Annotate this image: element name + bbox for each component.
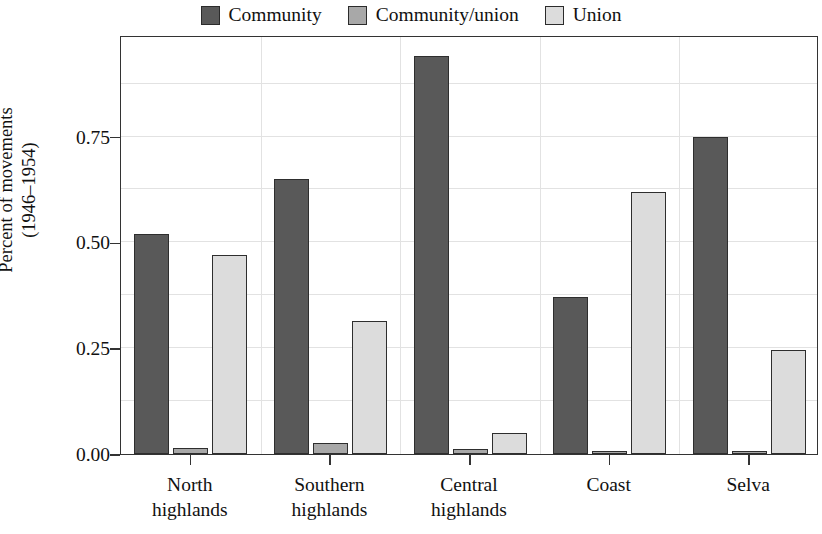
x-axis-tick-label: Southernhighlands <box>291 472 367 522</box>
y-axis-tick-mark <box>110 348 120 350</box>
x-axis-tick-label: Centralhighlands <box>431 472 507 522</box>
legend-entry-0[interactable]: Community <box>201 5 322 25</box>
x-axis-tick-mark <box>748 455 750 465</box>
x-axis-tick-label-line: highlands <box>152 497 228 522</box>
bar-north-highlands-community-union <box>173 448 208 454</box>
x-axis-tick-mark <box>329 455 331 465</box>
legend-swatch-icon <box>201 6 220 25</box>
gridline-vertical <box>261 37 262 454</box>
x-axis-tick-mark <box>609 455 611 465</box>
legend-label: Community <box>229 5 322 25</box>
y-axis-title-line-2: (1946–1954) <box>18 142 41 238</box>
y-axis-tick-mark <box>110 137 120 139</box>
gridline-vertical <box>400 37 401 454</box>
plot-area <box>120 36 818 455</box>
bar-central-highlands-community <box>414 56 449 454</box>
y-axis-tick-label: 0.50 <box>24 233 110 253</box>
bar-chart-figure: CommunityCommunity/unionUnion Percent of… <box>0 0 822 534</box>
y-axis-tick-label: 0.00 <box>24 445 110 465</box>
y-axis-tick-mark <box>110 243 120 245</box>
bar-southern-highlands-community <box>274 179 309 454</box>
bar-north-highlands-union <box>212 255 247 454</box>
gridline-vertical <box>679 37 680 454</box>
bar-southern-highlands-community-union <box>313 443 348 454</box>
bar-north-highlands-community <box>134 234 169 454</box>
x-axis-tick-label-line: Central <box>431 472 507 497</box>
legend-label: Union <box>573 5 622 25</box>
y-axis-tick-label: 0.75 <box>24 128 110 148</box>
x-axis-tick-label-line: Coast <box>586 472 630 497</box>
x-axis-tick-mark <box>190 455 192 465</box>
y-axis-title: Percent of movements (1946–1954) <box>0 40 41 340</box>
x-axis-tick-mark <box>469 455 471 465</box>
x-axis-tick-label-line: North <box>152 472 228 497</box>
x-axis-tick-label: Coast <box>586 472 630 497</box>
bar-coast-community <box>553 297 588 454</box>
bar-coast-union <box>631 192 666 454</box>
y-axis-title-line-1: Percent of movements <box>0 107 18 272</box>
x-axis-tick-label-line: Southern <box>291 472 367 497</box>
gridline-horizontal-minor <box>121 83 817 84</box>
bar-central-highlands-union <box>492 433 527 454</box>
bar-central-highlands-community-union <box>453 449 488 454</box>
x-axis-tick-label: Selva <box>727 472 770 497</box>
x-axis-tick-label-line: Selva <box>727 472 770 497</box>
bar-selva-community <box>693 137 728 454</box>
bar-selva-community-union <box>732 451 767 454</box>
y-axis-tick-label: 0.25 <box>24 339 110 359</box>
x-axis-tick-label-line: highlands <box>291 497 367 522</box>
legend-swatch-icon <box>348 6 367 25</box>
legend-swatch-icon <box>545 6 564 25</box>
bar-selva-union <box>771 350 806 454</box>
chart-legend: CommunityCommunity/unionUnion <box>0 2 822 28</box>
legend-entry-1[interactable]: Community/union <box>348 5 519 25</box>
gridline-vertical <box>540 37 541 454</box>
bar-coast-community-union <box>592 451 627 454</box>
legend-label: Community/union <box>376 5 519 25</box>
bar-southern-highlands-union <box>352 321 387 454</box>
x-axis-tick-label: Northhighlands <box>152 472 228 522</box>
y-axis-tick-mark <box>110 454 120 456</box>
legend-entry-2[interactable]: Union <box>545 5 622 25</box>
x-axis-tick-label-line: highlands <box>431 497 507 522</box>
